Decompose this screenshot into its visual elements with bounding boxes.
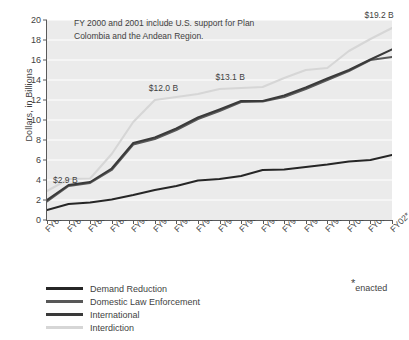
annotation-120B: $12.0 B (149, 83, 178, 93)
legend-swatch-icon (46, 300, 83, 303)
annotation-29B: $2.9 B (53, 175, 78, 185)
annotation-192B: $19.2 B (364, 10, 393, 20)
y-tick-4: 4 (19, 175, 41, 185)
legend-item-interdiction[interactable]: Interdiction (46, 321, 200, 334)
footnote-text: enacted (355, 283, 387, 293)
footnote-enacted: *enacted (351, 283, 387, 293)
legend-label: Demand Reduction (90, 284, 167, 294)
y-tick-0: 0 (19, 215, 41, 225)
y-tick-10: 10 (19, 115, 41, 125)
legend-item-demand-reduction[interactable]: Demand Reduction (46, 282, 200, 295)
chart-note: FY 2000 and 2001 include U.S. support fo… (74, 17, 289, 43)
line-demand-reduction (47, 155, 392, 210)
drug-control-budget-chart: Dollars, in Billions 02468101214161820 F… (0, 0, 409, 340)
y-tick-12: 12 (19, 95, 41, 105)
y-tick-2: 2 (19, 195, 41, 205)
legend-swatch-icon (46, 313, 83, 316)
y-tick-20: 20 (19, 15, 41, 25)
plot-area (47, 20, 392, 220)
legend-label: International (90, 310, 140, 320)
annotation-131B: $13.1 B (216, 72, 245, 82)
y-tick-8: 8 (19, 135, 41, 145)
y-tick-14: 14 (19, 75, 41, 85)
y-tick-16: 16 (19, 55, 41, 65)
legend-item-international[interactable]: International (46, 308, 200, 321)
legend-swatch-icon (46, 326, 83, 329)
series-lines (47, 20, 392, 220)
legend-swatch-icon (46, 287, 83, 290)
y-tick-6: 6 (19, 155, 41, 165)
legend-label: Interdiction (90, 323, 134, 333)
chart-legend: Demand ReductionDomestic Law Enforcement… (46, 282, 200, 334)
y-tick-18: 18 (19, 35, 41, 45)
legend-item-domestic-law-enforcement[interactable]: Domestic Law Enforcement (46, 295, 200, 308)
legend-label: Domestic Law Enforcement (90, 297, 200, 307)
